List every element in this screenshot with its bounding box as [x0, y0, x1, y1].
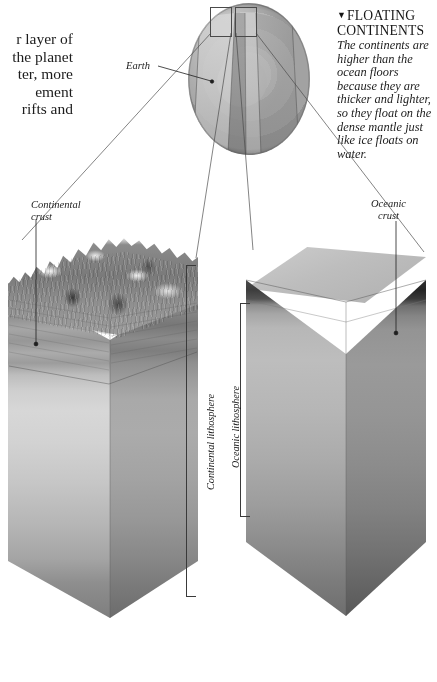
leader-continental-crust-dot — [34, 342, 38, 346]
diagram-canvas: r layer of the planet ter, more ement ri… — [0, 0, 437, 682]
label-continental-lithosphere: Continental lithosphere — [205, 394, 216, 490]
leader-earth — [158, 66, 211, 81]
leader-lines — [0, 0, 437, 682]
label-continental-crust: Continental crust — [31, 199, 81, 222]
label-oceanic-crust: Oceanic crust — [371, 198, 406, 221]
leader-earth-dot — [210, 80, 213, 83]
leader-line-continental-right — [196, 33, 231, 258]
label-oceanic-lithosphere: Oceanic lithosphere — [230, 386, 241, 468]
label-earth: Earth — [126, 60, 150, 72]
leader-line-oceanic-left — [236, 33, 253, 250]
leader-oceanic-crust-dot — [394, 331, 398, 335]
